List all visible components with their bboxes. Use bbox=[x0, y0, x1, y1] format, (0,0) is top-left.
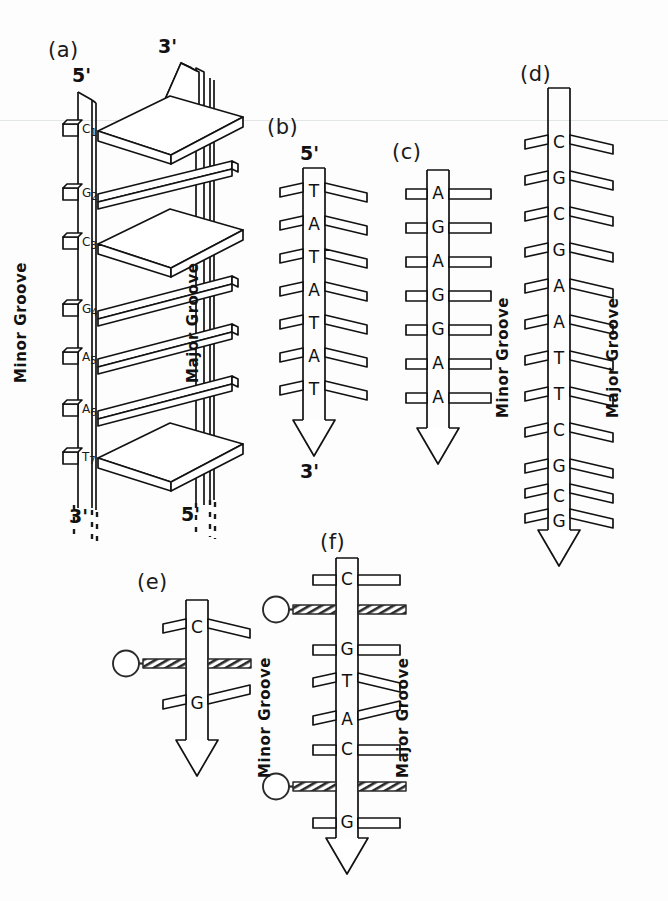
panel-c-artwork bbox=[406, 170, 491, 464]
panel-c-base-6: A bbox=[430, 353, 446, 373]
panel-b-bottom-end: 3' bbox=[300, 460, 319, 482]
basepair-bar-a6 bbox=[98, 376, 238, 426]
panel-a-base-5: A5 bbox=[82, 350, 97, 366]
panel-f-minor-groove-label: Minor Groove bbox=[256, 657, 274, 778]
panel-d-base-7: T bbox=[551, 348, 567, 368]
panel-f-intercalator-top bbox=[263, 597, 406, 623]
panel-d-base-3: C bbox=[551, 204, 567, 224]
panel-c-base-5: G bbox=[430, 319, 446, 339]
panel-a-major-groove-label: Major Groove bbox=[184, 262, 202, 383]
panel-b-base-4: A bbox=[306, 280, 322, 300]
panel-f-intercalator-bottom bbox=[263, 774, 406, 800]
basepair-bar-g2 bbox=[98, 161, 238, 209]
base-letter: A bbox=[82, 350, 90, 364]
base-number: 1 bbox=[90, 127, 96, 138]
panel-d-base-12: G bbox=[551, 511, 567, 531]
base-number: 2 bbox=[91, 191, 97, 202]
panel-d-base-6: A bbox=[551, 312, 567, 332]
panel-f-base-5: C bbox=[339, 739, 355, 759]
basepair-bar-a5 bbox=[98, 324, 238, 374]
panel-d-base-9: C bbox=[551, 420, 567, 440]
basepair-slab-c3 bbox=[98, 209, 243, 277]
panel-b-base-7: T bbox=[306, 379, 322, 399]
panel-f-base-3: T bbox=[339, 671, 355, 691]
panel-d-base-8: T bbox=[551, 384, 567, 404]
basepair-slab-t7 bbox=[98, 423, 243, 491]
panel-d-major-groove-label: Major Groove bbox=[604, 297, 622, 418]
panel-b-base-5: T bbox=[306, 313, 322, 333]
panel-a-minor-groove-label: Minor Groove bbox=[12, 262, 30, 383]
panel-c-base-1: A bbox=[430, 183, 446, 203]
base-number: 4 bbox=[91, 307, 97, 318]
panel-f-base-4: A bbox=[339, 709, 355, 729]
panel-f-base-2: G bbox=[339, 639, 355, 659]
base-letter: G bbox=[82, 186, 91, 200]
panel-d-base-1: C bbox=[551, 132, 567, 152]
panel-d-minor-groove-label: Minor Groove bbox=[494, 297, 512, 418]
panel-d-base-2: G bbox=[551, 168, 567, 188]
panel-label-f: (f) bbox=[320, 530, 345, 554]
panel-d-base-5: A bbox=[551, 276, 567, 296]
panel-label-c: (c) bbox=[392, 140, 421, 164]
panel-a-base-6: A6 bbox=[82, 402, 97, 418]
panel-label-e: (e) bbox=[137, 570, 168, 594]
basepair-bar-g4 bbox=[98, 276, 238, 326]
panel-b-base-2: A bbox=[306, 214, 322, 234]
base-number: 7 bbox=[89, 455, 95, 466]
panel-b-top-end: 5' bbox=[300, 142, 319, 164]
base-letter: A bbox=[82, 402, 90, 416]
panel-a-base-1: C1 bbox=[82, 122, 97, 138]
panel-f-base-1: C bbox=[339, 569, 355, 589]
panel-a-bottom-right-end: 5' bbox=[181, 503, 200, 525]
basepair-slab-c1 bbox=[98, 96, 243, 164]
panel-label-d: (d) bbox=[520, 62, 551, 86]
panel-d-base-4: G bbox=[551, 240, 567, 260]
panel-c-base-2: G bbox=[430, 217, 446, 237]
panel-e-base-2: G bbox=[189, 693, 205, 713]
panel-a-bottom-left-end: 3' bbox=[69, 505, 88, 527]
panel-label-a: (a) bbox=[48, 38, 79, 62]
panel-b-base-6: A bbox=[306, 346, 322, 366]
panel-label-b: (b) bbox=[267, 115, 298, 139]
dna-figure: (a) (b) (c) (d) (e) (f) 5' 3' 3' 5' Mino… bbox=[0, 0, 668, 901]
panel-a-base-4: G4 bbox=[82, 302, 98, 318]
panel-a-base-2: G2 bbox=[82, 186, 98, 202]
panel-d-artwork bbox=[525, 88, 613, 566]
panel-a-base-3: C3 bbox=[82, 235, 97, 251]
panel-b-artwork bbox=[280, 168, 367, 456]
panel-c-base-7: A bbox=[430, 387, 446, 407]
figure-linework bbox=[0, 0, 668, 901]
panel-c-base-3: A bbox=[430, 251, 446, 271]
panel-e-base-1: C bbox=[189, 617, 205, 637]
panel-a-top-left-end: 5' bbox=[72, 64, 91, 86]
base-letter: G bbox=[82, 302, 91, 316]
panel-c-base-4: G bbox=[430, 285, 446, 305]
panel-d-base-11: C bbox=[551, 486, 567, 506]
panel-a-top-right-end: 3' bbox=[158, 35, 177, 57]
panel-b-base-3: T bbox=[306, 247, 322, 267]
base-number: 6 bbox=[90, 407, 96, 418]
panel-f-base-6: G bbox=[339, 812, 355, 832]
panel-a-base-7: T7 bbox=[82, 450, 96, 466]
panel-d-base-10: G bbox=[551, 456, 567, 476]
panel-e-artwork bbox=[163, 600, 250, 776]
base-number: 3 bbox=[90, 240, 96, 251]
panel-f-major-groove-label: Major Groove bbox=[394, 657, 412, 778]
base-number: 5 bbox=[90, 355, 96, 366]
panel-b-base-1: T bbox=[306, 181, 322, 201]
panel-e-intercalator bbox=[113, 651, 251, 677]
